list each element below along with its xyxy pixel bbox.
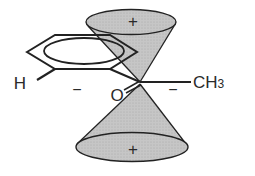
bottom-cone-plus-sign: + (128, 140, 138, 159)
methyl-group-label: CH3 (193, 73, 225, 92)
methyl-ch: CH (193, 73, 218, 92)
top-cone-plus-sign: + (128, 12, 138, 31)
methyl-subscript: 3 (218, 77, 225, 91)
right-minus-sign: − (168, 81, 177, 98)
hydrogen-atom-label: H (14, 74, 26, 93)
ring-h-bond (37, 69, 55, 80)
anisotropy-diagram: + + − − H O CH3 (0, 0, 255, 176)
left-minus-sign: − (72, 81, 81, 98)
oxygen-atom-label: O (110, 86, 123, 105)
